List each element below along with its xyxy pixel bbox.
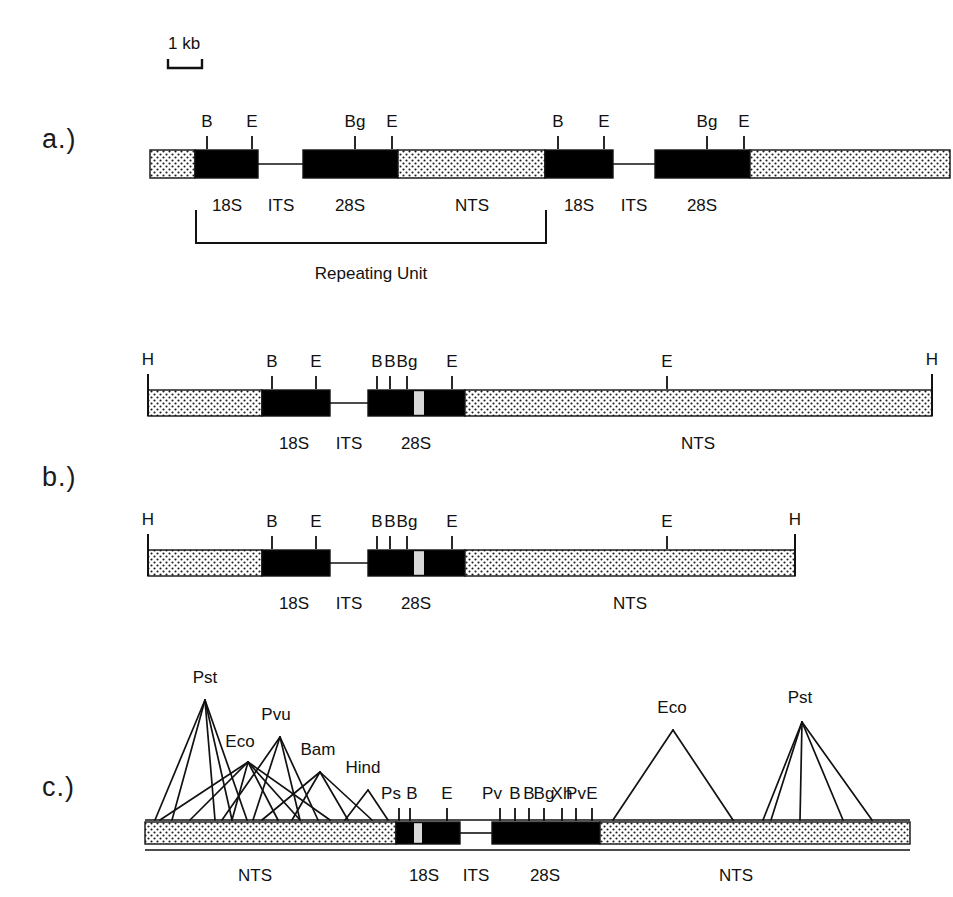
panel-b-map-1-site-E-label: E — [310, 352, 321, 372]
panel-c-fan-eco-line-6 — [248, 762, 330, 820]
panel-b-map-1-region-ITS: ITS — [336, 434, 362, 454]
panel-c-fan-eco-line-2 — [673, 730, 733, 820]
panel-c-fan-label-pvu-3: Pvu — [261, 705, 290, 725]
panel-b-map-1-site-Bg-label: Bg — [397, 352, 418, 372]
scale-bar — [168, 59, 202, 68]
panel-a-region-ITS: ITS — [268, 196, 294, 216]
panel-a-region-NTS: NTS — [455, 196, 489, 216]
panel-c-coding-block — [492, 822, 600, 844]
panel-b-map-2-block-gap — [414, 551, 424, 575]
panel-b-map-1-site-B-label: B — [266, 352, 277, 372]
panel-b-map-1-site-E-label: E — [446, 352, 457, 372]
panel-c-fan-label-bam-4: Bam — [301, 740, 336, 760]
panel-b-map-1-region-18S: 18S — [279, 434, 309, 454]
panel-c-fan-bam-line-3 — [320, 772, 348, 820]
repeating-unit-label: Repeating Unit — [315, 264, 427, 284]
panel-b-map-2-site-Bg-label: Bg — [397, 512, 418, 532]
panel-c-fan-pvu-line-3 — [280, 737, 300, 820]
panel-c-region-ITS: ITS — [463, 866, 489, 886]
panel-a-coding-block — [545, 150, 613, 178]
panel-c-site-E-label: E — [586, 784, 597, 804]
panel-b-map-1-spacer-block — [148, 390, 262, 416]
rdna-restriction-map-figure: 1 kb a.) b.) c.) BEBgEBEBgE18SITS28SNTS1… — [0, 0, 953, 897]
panel-a-coding-block — [303, 150, 398, 178]
panel-b-map-1-spacer-block — [465, 390, 932, 416]
panel-b-map-2-spacer-block — [465, 550, 795, 576]
panel-b-map-1-site-B-label: B — [384, 352, 395, 372]
panel-c-site-B-label: B — [509, 784, 520, 804]
panel-b-map-2-region-ITS: ITS — [336, 594, 362, 614]
panel-a-region-18S: 18S — [564, 196, 594, 216]
panel-b-map-2-region-28S: 28S — [401, 594, 431, 614]
panel-b-map-1-end-label-H: H — [926, 350, 938, 370]
panel-c-fan-pst-line-1 — [155, 700, 205, 820]
panel-b-map-2-region-18S: 18S — [279, 594, 309, 614]
panel-a-coding-block — [655, 150, 750, 178]
panel-a-site-E-label: E — [386, 112, 397, 132]
panel-c-fan-pst-line-5 — [205, 700, 247, 820]
panel-c-site-B-label: B — [406, 784, 417, 804]
panel-a-spacer-block — [750, 150, 950, 178]
panel-b-map-2-spacer-block — [148, 550, 262, 576]
panel-a-site-E-label: E — [738, 112, 749, 132]
panel-c-coding-block — [396, 822, 460, 844]
panel-c-fan-label-hind-5: Hind — [346, 758, 381, 778]
panel-a-region-28S: 28S — [687, 196, 717, 216]
panel-c-spacer-block — [600, 822, 910, 844]
panel-b-map-2-end-label-H: H — [789, 510, 801, 530]
panel-a-region-18S: 18S — [212, 196, 242, 216]
panel-a-region-28S: 28S — [335, 196, 365, 216]
panel-a-coding-block — [195, 150, 258, 178]
panel-b-map-2-site-E-label: E — [661, 512, 672, 532]
panel-a-spacer-block — [150, 150, 195, 178]
panel-b-map-2-site-B-label: B — [384, 512, 395, 532]
panel-b-map-2-site-E-label: E — [310, 512, 321, 532]
panel-b-map-1-region-NTS: NTS — [681, 434, 715, 454]
panel-b-map-1-end-label-H: H — [142, 350, 154, 370]
panel-a-spacer-block — [398, 150, 545, 178]
panel-c-site-E-label: E — [441, 784, 452, 804]
panel-a-site-B-label: B — [552, 112, 563, 132]
panel-b-map-2-site-B-label: B — [371, 512, 382, 532]
panel-b-map-1-block-gap — [414, 391, 424, 415]
panel-c-region-NTS: NTS — [238, 866, 272, 886]
panel-a-site-B-label: B — [201, 112, 212, 132]
panel-a-region-ITS: ITS — [621, 196, 647, 216]
panel-c-region-18S: 18S — [409, 866, 439, 886]
panel-c-fan-label-pst-1: Pst — [193, 668, 218, 688]
panel-b-map-1-coding-block — [262, 390, 330, 416]
panel-c-fan-hind-line-1 — [345, 790, 368, 820]
panel-c-region-28S: 28S — [530, 866, 560, 886]
panel-c-fan-pst-line-1 — [763, 722, 802, 820]
panel-b-map-2-coding-block — [262, 550, 330, 576]
panel-c-fan-label-pst-7: Pst — [788, 688, 813, 708]
panel-c-fan-pst-line-3 — [205, 700, 215, 820]
panel-b-map-1-site-E-label: E — [661, 352, 672, 372]
panel-c-region-NTS: NTS — [719, 866, 753, 886]
figure-canvas — [0, 0, 953, 897]
panel-c-fan-pst-line-3 — [800, 722, 802, 820]
panel-c-block-gap — [414, 823, 422, 843]
panel-b-map-2-site-B-label: B — [266, 512, 277, 532]
panel-c-site-Pv-label: Pv — [566, 784, 586, 804]
panel-c-site-Ps-label: Ps — [381, 784, 401, 804]
panel-a-site-E-label: E — [598, 112, 609, 132]
panel-a-site-E-label: E — [246, 112, 257, 132]
panel-b-map-1-region-28S: 28S — [401, 434, 431, 454]
panel-b-map-2-region-NTS: NTS — [613, 594, 647, 614]
panel-c-spacer-block — [145, 822, 396, 844]
repeating-unit-bracket — [196, 210, 546, 243]
panel-c-fan-pst-line-2 — [771, 722, 802, 820]
panel-b-map-2-site-E-label: E — [446, 512, 457, 532]
panel-c-fan-eco-line-1 — [613, 730, 673, 820]
panel-a-site-Bg-label: Bg — [345, 112, 366, 132]
panel-c-site-Pv-label: Pv — [482, 784, 502, 804]
panel-a-site-Bg-label: Bg — [697, 112, 718, 132]
panel-c-fan-label-eco-2: Eco — [225, 732, 254, 752]
panel-b-map-2-end-label-H: H — [142, 510, 154, 530]
panel-c-fan-label-eco-6: Eco — [657, 698, 686, 718]
panel-b-map-1-site-B-label: B — [371, 352, 382, 372]
